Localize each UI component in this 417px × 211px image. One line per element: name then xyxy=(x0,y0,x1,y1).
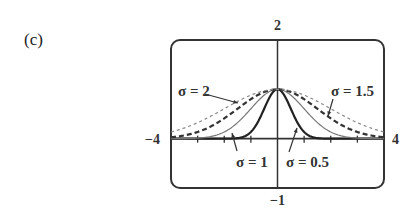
labels: −442−1σ = 2σ = 1.5σ = 1σ = 0.5 xyxy=(145,18,399,208)
y-max-label: 2 xyxy=(274,18,281,33)
gaussian-chart: −442−1σ = 2σ = 1.5σ = 1σ = 0.5 xyxy=(0,0,417,211)
arrowhead-icon xyxy=(294,128,298,133)
annotation-label: σ = 1.5 xyxy=(331,83,374,99)
axes xyxy=(171,40,384,188)
x-max-label: 4 xyxy=(392,132,399,147)
x-min-label: −4 xyxy=(145,132,160,147)
arrowhead-icon xyxy=(327,111,331,116)
arrowhead-icon xyxy=(231,133,235,138)
y-min-label: −1 xyxy=(270,193,285,208)
annotation-label: σ = 0.5 xyxy=(286,154,329,170)
annotation-arrow xyxy=(205,94,238,103)
annotation-label: σ = 2 xyxy=(178,83,210,99)
annotation-label: σ = 1 xyxy=(236,154,268,170)
